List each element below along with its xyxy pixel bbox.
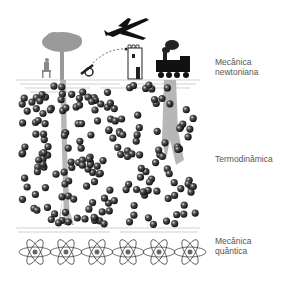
label-line: Mecânica: [215, 236, 251, 246]
molecule: [33, 207, 40, 214]
molecule: [158, 95, 165, 102]
molecule: [106, 187, 113, 194]
molecule: [134, 112, 141, 119]
molecule: [21, 143, 28, 150]
atom-icon: [143, 237, 175, 266]
molecule: [40, 131, 47, 138]
molecule: [33, 105, 40, 112]
molecule: [137, 174, 144, 181]
molecule: [174, 146, 181, 153]
molecule: [109, 135, 116, 142]
molecule: [171, 192, 178, 199]
molecule: [166, 170, 173, 177]
molecule: [192, 210, 199, 217]
molecule: [76, 102, 83, 109]
molecule: [173, 211, 180, 218]
molecule: [106, 207, 113, 214]
molecule: [180, 211, 187, 218]
molecule: [81, 215, 88, 222]
molecule: [150, 221, 157, 228]
atom-icon: [81, 237, 113, 266]
molecule: [155, 147, 162, 154]
molecule: [101, 220, 108, 227]
newtonian-layer: [42, 18, 190, 80]
molecule: [181, 202, 188, 209]
molecule: [190, 183, 197, 190]
molecule: [133, 186, 140, 193]
label-newtonian-mechanics: Mecânica newtoniana: [215, 57, 258, 77]
molecule: [50, 83, 57, 90]
molecule: [104, 89, 111, 96]
gas-molecules: [18, 81, 198, 228]
molecule: [130, 212, 137, 219]
molecule: [62, 209, 69, 216]
molecule: [117, 151, 124, 158]
molecule: [94, 163, 101, 170]
molecule: [111, 197, 118, 204]
molecule: [166, 100, 173, 107]
molecule: [65, 218, 72, 225]
molecule: [177, 185, 184, 192]
molecule: [176, 125, 183, 132]
molecule: [74, 214, 81, 221]
molecule: [68, 91, 75, 98]
molecule: [126, 218, 133, 225]
label-line: newtoniana: [215, 67, 258, 77]
locomotive-icon: [156, 40, 190, 78]
molecule: [68, 158, 75, 165]
molecule: [87, 131, 94, 138]
molecule: [78, 120, 85, 127]
molecule: [32, 131, 39, 138]
molecule: [159, 153, 166, 160]
molecule: [164, 84, 171, 91]
molecule: [58, 193, 65, 200]
molecule: [36, 97, 43, 104]
molecule: [94, 117, 101, 124]
molecule: [65, 145, 72, 152]
molecule: [52, 171, 59, 178]
molecule: [35, 156, 42, 163]
molecule: [171, 179, 178, 186]
molecule: [70, 196, 77, 203]
molecule: [133, 138, 140, 145]
molecule: [58, 83, 65, 90]
label-quantum-mechanics: Mecânica quântica: [215, 236, 251, 256]
molecule: [78, 145, 85, 152]
molecule: [171, 220, 178, 227]
molecule: [89, 199, 96, 206]
molecule: [21, 95, 28, 102]
molecule: [185, 133, 192, 140]
cannon-icon: [81, 65, 93, 76]
molecule: [79, 162, 86, 169]
molecule: [19, 150, 26, 157]
cannonball-trajectory: [93, 49, 126, 63]
molecule: [136, 124, 143, 131]
molecule: [130, 82, 137, 89]
molecule: [163, 218, 170, 225]
molecule: [42, 120, 49, 127]
molecule: [21, 175, 28, 182]
molecule: [107, 100, 114, 107]
molecule: [114, 144, 121, 151]
molecule: [97, 170, 104, 177]
molecule: [61, 169, 68, 176]
molecule: [145, 214, 152, 221]
atom-icon: [50, 237, 82, 266]
molecule: [131, 202, 138, 209]
molecule: [39, 110, 46, 117]
molecule: [118, 115, 125, 122]
molecule: [76, 95, 83, 102]
molecule: [105, 126, 112, 133]
molecule: [190, 115, 197, 122]
molecule: [24, 108, 31, 115]
tree-icon: [42, 32, 82, 80]
molecule: [44, 204, 51, 211]
molecule: [19, 119, 26, 126]
atom-icon: [112, 237, 144, 266]
molecule: [83, 183, 90, 190]
molecule: [35, 117, 42, 124]
molecule: [138, 165, 145, 172]
molecule: [119, 131, 126, 138]
molecule: [61, 132, 68, 139]
molecule: [61, 180, 68, 187]
